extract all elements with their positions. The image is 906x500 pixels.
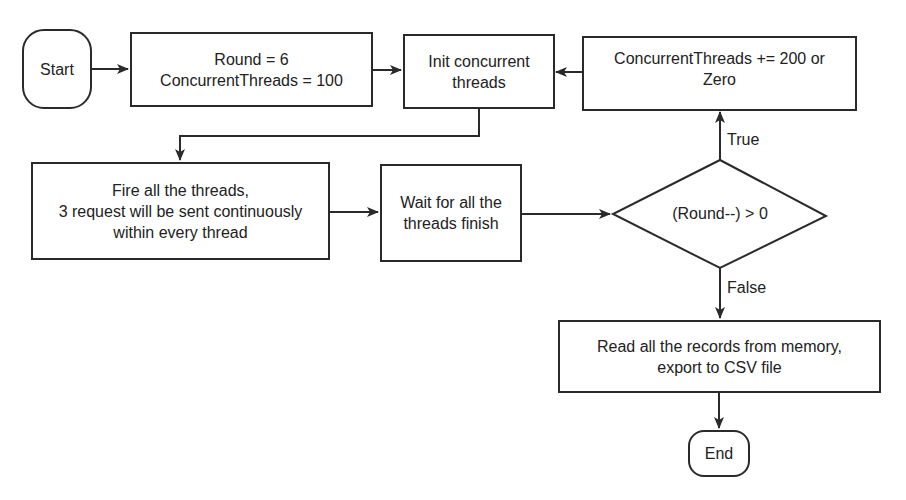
init-threads-line-1: Init concurrent — [428, 51, 529, 72]
init-vars-line-2: ConcurrentThreads = 100 — [160, 70, 343, 91]
export-line-1: Read all the records from memory, — [597, 336, 842, 357]
start-node: Start — [22, 29, 92, 109]
export-line-2: export to CSV file — [657, 357, 782, 378]
increment-node: ConcurrentThreads += 200 or Zero — [582, 36, 857, 111]
end-node: End — [688, 430, 750, 477]
end-label: End — [705, 443, 733, 464]
increment-line-1: ConcurrentThreads += 200 or — [614, 48, 825, 69]
wait-line-1: Wait for all the — [400, 192, 502, 213]
init-threads-line-2: threads — [452, 72, 505, 93]
start-label: Start — [40, 59, 74, 80]
edge-init-threads-to-fire — [180, 108, 479, 160]
export-node: Read all the records from memory, export… — [558, 320, 881, 393]
decision-label: (Round--) > 0 — [650, 205, 790, 223]
init-vars-line-1: Round = 6 — [214, 49, 288, 70]
false-edge-label: False — [727, 279, 766, 297]
fire-line-2: 3 request will be sent continuously — [59, 201, 303, 222]
init-threads-node: Init concurrent threads — [403, 34, 555, 109]
wait-node: Wait for all the threads finish — [380, 164, 522, 262]
fire-line-3: within every thread — [113, 222, 247, 243]
wait-line-2: threads finish — [403, 213, 498, 234]
true-edge-label: True — [727, 131, 759, 149]
init-vars-node: Round = 6 ConcurrentThreads = 100 — [130, 32, 373, 107]
increment-line-2: Zero — [703, 69, 736, 90]
fire-line-1: Fire all the threads, — [112, 180, 249, 201]
fire-threads-node: Fire all the threads, 3 request will be … — [31, 162, 330, 260]
